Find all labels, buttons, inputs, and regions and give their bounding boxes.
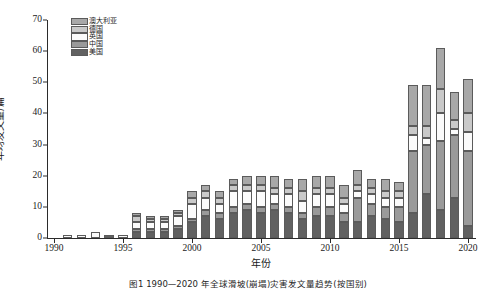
bar-segment-澳大利亚 — [312, 176, 321, 188]
legend-swatch — [71, 33, 88, 40]
y-tick-mark — [43, 51, 47, 52]
bar-segment-英国 — [187, 204, 196, 220]
bar-segment-美国 — [450, 198, 459, 238]
bar-segment-美国 — [312, 216, 321, 238]
bar-segment-德国 — [408, 126, 417, 135]
bar-2009 — [312, 176, 321, 238]
bar-1998 — [160, 216, 169, 238]
bar-segment-美国 — [229, 213, 238, 238]
y-tick-label: 30 — [33, 140, 43, 150]
legend-swatch — [71, 18, 88, 25]
bar-segment-英国 — [256, 191, 265, 207]
x-tick-label: 1995 — [113, 244, 132, 254]
bar-1996 — [132, 213, 141, 238]
bar-segment-澳大利亚 — [256, 176, 265, 185]
bar-2006 — [270, 176, 279, 238]
y-tick-label: 60 — [33, 46, 43, 56]
bar-segment-美国 — [270, 210, 279, 238]
bar-segment-中国 — [353, 198, 362, 223]
bar-segment-中国 — [312, 207, 321, 216]
y-axis-title: 年均发文量/篇 — [0, 97, 6, 160]
bar-segment-英国 — [242, 191, 251, 203]
bar-segment-美国 — [104, 235, 113, 238]
bar-segment-英国 — [367, 194, 376, 203]
bar-segment-英国 — [325, 194, 334, 206]
bar-segment-美国 — [173, 229, 182, 238]
bar-1991 — [63, 235, 72, 238]
bar-segment-德国 — [436, 89, 445, 114]
bar-2015 — [394, 182, 403, 238]
bar-segment-中国 — [463, 151, 472, 226]
bar-segment-德国 — [450, 120, 459, 129]
bar-segment-美国 — [146, 232, 155, 238]
bar-segment-英国 — [381, 198, 390, 207]
bar-segment-英国 — [312, 194, 321, 206]
bar-segment-英国 — [77, 235, 86, 238]
figure-caption: 图1 1990—2020 年全球滑坡(崩塌)灾害发文量趋势(按国别) — [129, 277, 367, 289]
y-tick-mark — [43, 113, 47, 114]
bar-2001 — [201, 185, 210, 238]
bar-segment-美国 — [215, 219, 224, 238]
bar-segment-美国 — [187, 222, 196, 238]
legend-swatch — [71, 26, 88, 33]
bar-segment-美国 — [353, 222, 362, 238]
legend-swatch — [71, 41, 88, 48]
bar-segment-美国 — [325, 216, 334, 238]
x-tick-label: 2005 — [252, 244, 271, 254]
x-tick-label: 2020 — [459, 244, 478, 254]
bar-segment-德国 — [298, 191, 307, 200]
bar-segment-英国 — [118, 235, 127, 238]
bar-segment-中国 — [394, 207, 403, 223]
bar-segment-美国 — [394, 222, 403, 238]
bar-segment-英国 — [229, 191, 238, 207]
bar-segment-中国 — [408, 151, 417, 213]
bar-1995 — [118, 235, 127, 238]
bar-segment-美国 — [367, 216, 376, 238]
y-tick-mark — [43, 82, 47, 83]
bar-2020 — [463, 79, 472, 238]
bar-segment-澳大利亚 — [463, 79, 472, 113]
y-tick-label: 20 — [33, 171, 43, 181]
bar-1992 — [77, 235, 86, 238]
bar-2014 — [381, 179, 390, 238]
y-tick-mark — [43, 175, 47, 176]
bar-segment-澳大利亚 — [422, 85, 431, 125]
bar-segment-英国 — [91, 232, 100, 238]
bar-2005 — [256, 176, 265, 238]
bar-segment-澳大利亚 — [270, 176, 279, 188]
y-tick-mark — [43, 20, 47, 21]
bar-2019 — [450, 92, 459, 238]
bar-segment-英国 — [215, 204, 224, 213]
bar-segment-英国 — [463, 132, 472, 151]
bar-segment-英国 — [298, 201, 307, 213]
bar-segment-德国 — [463, 113, 472, 132]
bar-segment-中国 — [325, 207, 334, 216]
y-tick-label: 40 — [33, 109, 43, 119]
bar-segment-中国 — [436, 141, 445, 210]
bar-2002 — [215, 191, 224, 238]
bar-1994 — [104, 235, 113, 238]
y-tick-mark — [43, 144, 47, 145]
bar-2007 — [284, 179, 293, 238]
bar-2003 — [229, 179, 238, 238]
bar-segment-德国 — [422, 126, 431, 138]
bar-segment-澳大利亚 — [339, 185, 348, 197]
bar-segment-澳大利亚 — [367, 179, 376, 188]
bar-2011 — [339, 185, 348, 238]
bar-segment-英国 — [284, 194, 293, 206]
bar-segment-美国 — [298, 219, 307, 238]
bar-segment-美国 — [408, 213, 417, 238]
bar-2018 — [436, 48, 445, 238]
bar-segment-美国 — [256, 213, 265, 238]
bar-segment-英国 — [270, 194, 279, 203]
bar-2017 — [422, 85, 431, 238]
bar-segment-澳大利亚 — [381, 179, 390, 191]
bar-segment-美国 — [436, 210, 445, 238]
bar-2013 — [367, 179, 376, 238]
bar-segment-美国 — [463, 226, 472, 238]
bar-segment-中国 — [367, 204, 376, 216]
bar-segment-美国 — [132, 232, 141, 238]
bar-segment-英国 — [63, 235, 72, 238]
bar-segment-澳大利亚 — [394, 182, 403, 191]
